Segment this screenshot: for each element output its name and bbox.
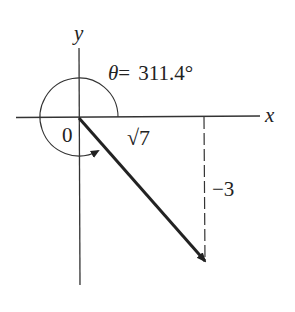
x-component-label: √7 — [127, 125, 150, 150]
y-component-dashed-line — [204, 117, 205, 262]
origin-label: 0 — [62, 123, 73, 147]
y-component-label: −3 — [212, 177, 234, 201]
angle-equals: = — [118, 61, 130, 85]
vector-diagram: y x 0 θ=311.4° √7 −3 — [0, 0, 295, 312]
y-axis-label: y — [72, 21, 84, 45]
theta-symbol: θ — [108, 61, 118, 85]
angle-value: 311.4° — [138, 61, 193, 85]
angle-label: θ=311.4° — [108, 61, 193, 85]
y-axis — [79, 48, 80, 285]
diagram-canvas: y x 0 θ=311.4° √7 −3 — [0, 0, 295, 312]
x-axis-label: x — [264, 103, 275, 127]
x-axis — [16, 116, 260, 118]
